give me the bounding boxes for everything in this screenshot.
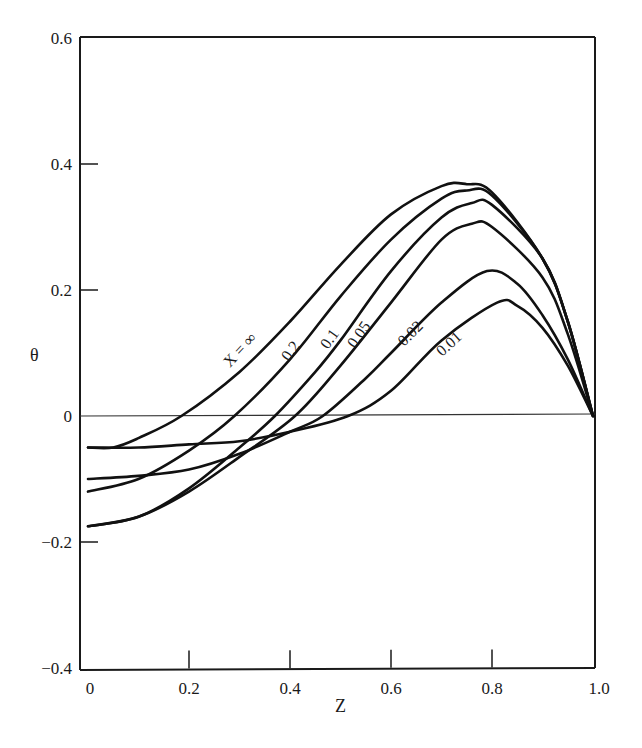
y-tick-label: 0.2	[51, 281, 72, 300]
y-ticks: 0.60.40.20−0.2−0.4	[41, 29, 98, 678]
x-tick-label: 0	[86, 679, 95, 698]
x-tick-label: 0.8	[481, 679, 502, 698]
curve-label-0.2: 0.2	[278, 338, 303, 364]
x-ticks: 00.20.40.60.81.0	[86, 649, 610, 698]
x-tick-label: 1.0	[588, 679, 609, 698]
curve-label-0.05: 0.05	[344, 318, 374, 351]
x-tick-label: 0.2	[178, 679, 199, 698]
zero-reference-line	[80, 414, 595, 416]
x-axis-label: Z	[335, 696, 346, 716]
y-tick-label: 0.4	[51, 155, 73, 174]
y-tick-label: 0	[64, 407, 73, 426]
x-tick-label: 0.6	[380, 679, 401, 698]
y-tick-label: −0.2	[41, 533, 72, 552]
y-tick-label: 0.6	[51, 29, 72, 48]
theta-vs-z-chart: 0.60.40.20−0.2−0.4 00.20.40.60.81.0 X = …	[0, 0, 642, 748]
curve-label-0.01: 0.01	[433, 328, 465, 359]
curve-label-x-inf: X = ∞	[220, 329, 260, 370]
plot-frame	[80, 37, 595, 670]
curve-0.05	[88, 221, 593, 526]
curves	[88, 183, 593, 526]
curve-0.02	[88, 270, 593, 479]
x-tick-label: 0.4	[279, 679, 301, 698]
curve-label-0.1: 0.1	[317, 326, 342, 352]
y-axis-label: θ	[30, 345, 39, 365]
x-axis	[80, 668, 595, 670]
y-tick-label: −0.4	[41, 659, 72, 678]
